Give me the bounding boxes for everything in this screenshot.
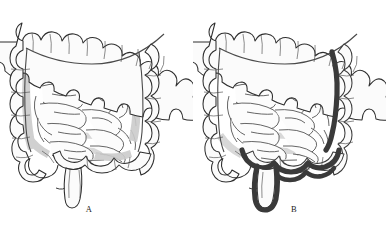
rectum-a [64,168,82,208]
figure-container: A B [0,0,387,225]
panel-b [193,0,386,225]
colon-illustration-b [193,23,386,210]
panel-a [0,0,193,225]
panel-a-caption: A [69,204,109,214]
panel-b-caption: B [274,204,314,214]
colon-illustration-a [0,23,193,208]
